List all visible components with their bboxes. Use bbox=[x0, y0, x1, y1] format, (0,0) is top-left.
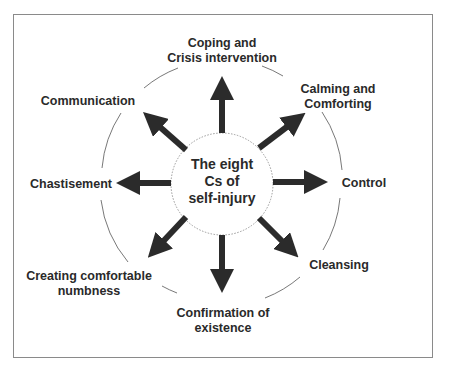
node-chastisement: Chastisement bbox=[28, 177, 114, 192]
arrow-up-right bbox=[259, 120, 296, 148]
node-cleansing-line1: Cleansing bbox=[304, 258, 374, 273]
node-calming-line1: Calming and bbox=[298, 82, 378, 97]
node-control-line1: Control bbox=[337, 176, 391, 191]
node-communication-line1: Communication bbox=[40, 94, 136, 109]
center-label-line2: Cs of bbox=[172, 173, 272, 190]
node-coping-line1: Coping and bbox=[160, 36, 284, 51]
node-calming: Calming and Comforting bbox=[298, 82, 378, 112]
node-coping: Coping and Crisis intervention bbox=[160, 36, 284, 66]
node-confirmation-line1: Confirmation of bbox=[168, 306, 278, 321]
center-label: The eight Cs of self-injury bbox=[172, 156, 272, 207]
center-label-line1: The eight bbox=[172, 156, 272, 173]
node-numbness-line1: Creating comfortable bbox=[22, 269, 156, 284]
node-calming-line2: Comforting bbox=[298, 97, 378, 112]
node-numbness-line2: numbness bbox=[22, 284, 156, 299]
center-label-line3: self-injury bbox=[172, 190, 272, 207]
node-control: Control bbox=[337, 176, 391, 191]
arrow-up-left bbox=[152, 120, 186, 150]
node-chastisement-line1: Chastisement bbox=[28, 177, 114, 192]
node-coping-line2: Crisis intervention bbox=[160, 51, 284, 66]
node-cleansing: Cleansing bbox=[304, 258, 374, 273]
arrow-down-left bbox=[156, 217, 186, 249]
node-confirmation: Confirmation of existence bbox=[168, 306, 278, 336]
node-numbness: Creating comfortable numbness bbox=[22, 269, 156, 299]
node-confirmation-line2: existence bbox=[168, 321, 278, 336]
arrow-down-right bbox=[259, 218, 290, 249]
node-communication: Communication bbox=[40, 94, 136, 109]
